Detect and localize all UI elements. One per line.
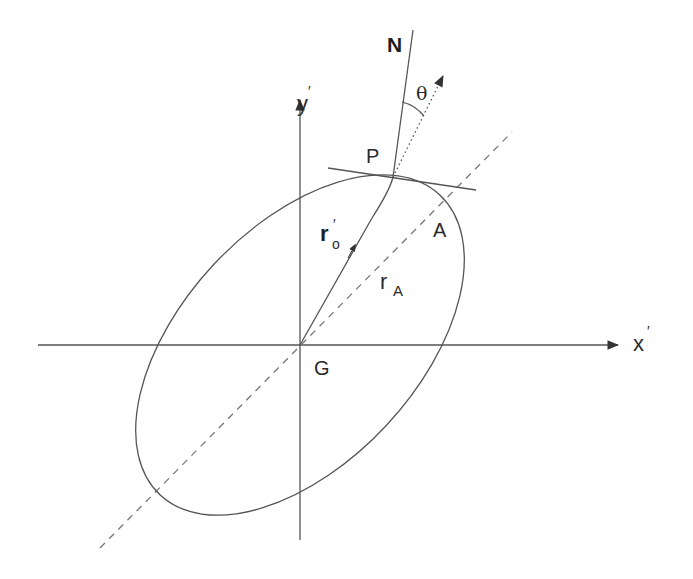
- r0-prime: ′: [333, 216, 336, 232]
- rA-main: r: [380, 269, 387, 294]
- label-rA: r A: [380, 269, 403, 299]
- label-P: P: [366, 145, 379, 167]
- label-r0: r o ′: [320, 216, 340, 252]
- y-prime: ′: [308, 83, 311, 99]
- rA-subscript: A: [393, 282, 403, 299]
- label-A: A: [433, 219, 447, 241]
- r0-subscript: o: [332, 236, 340, 252]
- label-origin-G: G: [314, 357, 330, 379]
- x-prime: ′: [647, 323, 650, 339]
- y-label: y: [297, 91, 308, 116]
- theta-arc: [402, 102, 424, 116]
- label-N: N: [387, 33, 402, 56]
- label-x-axis: x ′: [633, 323, 650, 356]
- r0-main: r: [320, 221, 329, 246]
- diagram-canvas: N θ P A r o ′ r A G x ′ y ′: [0, 0, 693, 579]
- label-theta: θ: [416, 82, 427, 104]
- position-vector-r0: [300, 177, 393, 345]
- x-label: x: [633, 331, 644, 356]
- label-y-axis: y ′: [297, 83, 311, 116]
